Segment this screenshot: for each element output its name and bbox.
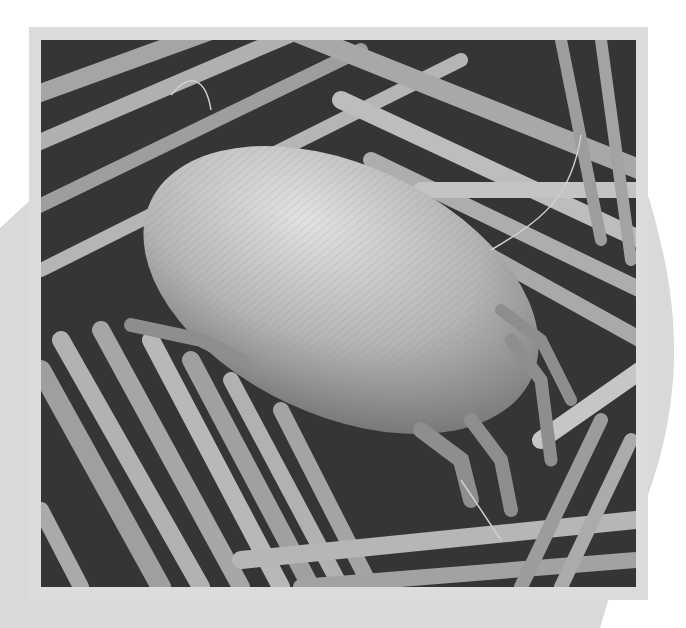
micrograph-illustration [41, 40, 636, 587]
sem-micrograph: Grayscale SEM image of an oval dust mite… [41, 40, 636, 587]
